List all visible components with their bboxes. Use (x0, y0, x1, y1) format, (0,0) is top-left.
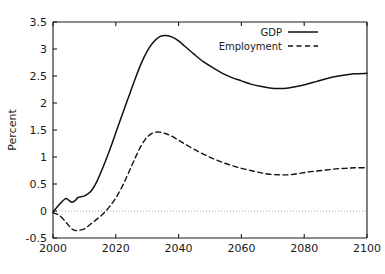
line-chart: -0.500.511.522.533.5 2000202020402060208… (0, 0, 385, 274)
plot-area-background (53, 22, 367, 238)
y-tick-label: 1.5 (30, 124, 48, 137)
y-tick-label: 2.5 (30, 70, 48, 83)
x-tick-label: 2080 (290, 242, 318, 255)
y-tick-label: 1 (40, 151, 47, 164)
y-tick-label: 3.5 (30, 16, 48, 29)
y-tick-label: 0.5 (30, 178, 48, 191)
y-axis-title: Percent (6, 109, 19, 151)
y-axis-ticks: -0.500.511.522.533.5 (26, 16, 57, 245)
y-tick-label: 0 (40, 205, 47, 218)
x-tick-label: 2020 (102, 242, 130, 255)
x-tick-label: 2060 (227, 242, 255, 255)
legend-label-gdp: GDP (261, 27, 282, 38)
x-tick-label: 2040 (165, 242, 193, 255)
y-tick-label: 2 (40, 97, 47, 110)
legend-label-employment: Employment (219, 41, 282, 52)
x-tick-label: 2100 (353, 242, 381, 255)
chart-container: -0.500.511.522.533.5 2000202020402060208… (0, 0, 385, 274)
y-tick-label: 3 (40, 43, 47, 56)
x-tick-label: 2000 (39, 242, 67, 255)
